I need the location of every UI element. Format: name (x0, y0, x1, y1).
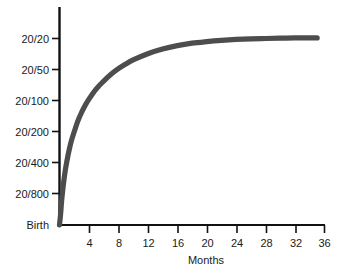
chart-background (0, 0, 340, 277)
y-tick-label-birth: Birth (26, 219, 49, 231)
x-tick-label-4: 4 (86, 237, 92, 249)
x-tick-label-36: 36 (318, 237, 330, 249)
y-tick-label-20-100: 20/100 (15, 95, 49, 107)
y-tick-label-20-20: 20/20 (21, 33, 49, 45)
y-tick-label-20-400: 20/400 (15, 157, 49, 169)
x-axis-title: Months (188, 254, 225, 266)
x-tick-label-16: 16 (172, 237, 184, 249)
x-tick-label-32: 32 (290, 237, 302, 249)
x-tick-label-12: 12 (142, 237, 154, 249)
visual-acuity-chart: 20/20 20/50 20/100 20/200 20/400 20/800 … (0, 0, 340, 277)
x-tick-label-20: 20 (201, 237, 213, 249)
chart-plot-area: 20/20 20/50 20/100 20/200 20/400 20/800 … (0, 0, 340, 277)
x-tick-label-24: 24 (231, 237, 243, 249)
x-tick-label-28: 28 (260, 237, 272, 249)
x-tick-label-8: 8 (116, 237, 122, 249)
y-tick-label-20-800: 20/800 (15, 188, 49, 200)
y-tick-label-20-50: 20/50 (21, 64, 49, 76)
y-tick-label-20-200: 20/200 (15, 126, 49, 138)
